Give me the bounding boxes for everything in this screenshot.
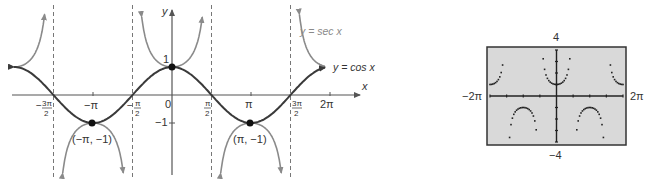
calc-plot-pixel [520,107,522,109]
calc-plot-pixel [576,129,578,131]
calc-plot-pixel [545,74,547,76]
numerator: 3π [292,99,302,108]
calc-plot-pixel [523,107,525,109]
sec-curve [14,14,325,173]
calc-plot-pixel [579,115,581,117]
x-tick-label-pi: π [245,98,253,110]
calc-plot-pixel [527,108,529,110]
calc-plot-pixel [615,81,617,83]
calc-plot-pixel [524,107,526,109]
calc-plot-pixel [596,109,598,111]
x-tick-label-neg-3pi-2: − 3π 2 [36,99,52,118]
y-tick-1: 1 [163,53,169,65]
sec-branch [14,14,45,67]
numerator: π [135,99,141,108]
point-neg-pi [89,120,96,127]
calc-plot-pixel [542,58,544,60]
calc-plot-pixel [589,107,591,109]
x-tick-label-3pi-2: 3π 2 [292,99,302,118]
x-tick-label-2pi: 2π [320,98,334,110]
calc-plot-pixel [586,107,588,109]
calc-plot-pixel [534,120,536,122]
sec-cos-graph: y x 1 −1 − 3π 2 −π − π 2 0 π 2 π 3π 2 [12,5,375,178]
calc-plot-pixel [544,69,546,71]
sec-branch [299,15,325,67]
x-tick-label-pi-2: π 2 [204,99,211,118]
calc-plot-pixel [565,78,567,80]
calc-plot-pixel [498,79,500,81]
calc-plot-pixel [584,108,586,110]
cos-curve-label: y = cos x [332,61,375,73]
calc-plot-pixel [617,82,619,84]
sign: − [127,100,133,111]
calc-plot-pixel [566,74,568,76]
calculator-screen: 4 −4 −2π 2π [462,31,644,161]
calc-plot-pixel [554,83,556,85]
calc-plot-pixel [591,107,593,109]
denominator: 2 [294,109,299,118]
calc-xmin-label: −2π [462,90,483,102]
calc-plot-pixel [496,81,498,83]
calc-plot-pixel [590,107,592,109]
calc-plot-pixel [577,120,579,122]
calc-plot-pixel [583,109,585,111]
calc-plot-pixel [516,109,518,111]
y-axis-label: y [161,5,169,17]
x-axis-label: x [361,80,368,92]
calc-plot-pixel [563,80,565,82]
point-label-pi: (π, −1) [233,133,267,145]
calc-plot-pixel [555,84,557,86]
calc-plot-pixel [530,110,532,112]
calc-plot-pixel [549,81,551,83]
calc-plot-pixel [547,78,549,80]
calc-plot-pixel [558,83,560,85]
calc-plot-pixel [618,83,620,85]
x-tick-label-neg-pi: −π [84,99,98,111]
calc-plot-pixel [526,107,528,109]
sec-curve-label: y = sec x [299,25,342,37]
calc-plot-pixel [597,111,599,113]
calc-plot-pixel [509,137,511,139]
calc-plot-pixel [561,82,563,84]
denominator: 2 [205,109,210,118]
denominator: 2 [135,109,140,118]
calc-plot-pixel [552,83,554,85]
calc-plot-pixel [568,69,570,71]
calc-plot-pixel [556,84,558,86]
calc-plot-pixel [598,114,600,116]
point-pi [247,120,254,127]
calc-plot-pixel [502,64,504,66]
point-zero-one [169,64,176,71]
x-tick-label-zero: 0 [165,98,171,110]
calc-plot-pixel [492,83,494,85]
sec-branch [221,123,282,173]
calc-plot-pixel [593,108,595,110]
calc-plot-pixel [603,137,605,139]
calc-plot-pixel [499,76,501,78]
calc-plot-pixel [493,83,495,85]
calc-plot-pixel [535,129,537,131]
calc-plot-pixel [562,81,564,83]
calc-ymin-label: −4 [549,149,562,161]
calc-plot-pixel [512,117,514,119]
calc-plot-pixel [528,109,530,111]
calc-plot-pixel [514,111,516,113]
calc-plot-pixel [517,108,519,110]
calc-plot-pixel [531,112,533,114]
calc-plot-pixel [582,110,584,112]
calc-plot-pixel [495,82,497,84]
calc-xmax-label: 2π [630,90,644,102]
x-tick-label-neg-pi-2: − π 2 [127,99,141,118]
calc-plot-pixel [489,84,491,86]
calc-plot-pixel [612,76,614,78]
numerator: π [205,99,211,108]
calc-plot-pixel [513,114,515,116]
calc-plot-pixel [594,108,596,110]
calc-plot-pixel [619,83,621,85]
calc-plot-pixel [601,124,603,126]
numerator: 3π [42,99,52,108]
sec-branch [63,123,124,173]
calc-plot-pixel [559,83,561,85]
calc-plot-pixel [611,72,613,74]
calc-plot-pixel [587,107,589,109]
